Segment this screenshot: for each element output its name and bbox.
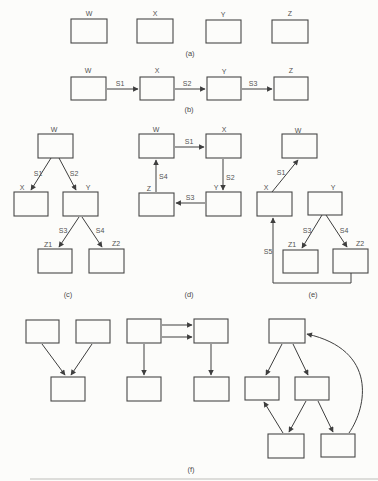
panel-a-node-w-label: W — [86, 10, 93, 17]
panel-d-node-y-label: Y — [214, 184, 219, 191]
panel-c-node-w-label: W — [51, 126, 58, 133]
panel-f-right-edge-bottomleft-midleft-arrow — [264, 402, 283, 433]
panel-d-edge-s2-label: S2 — [226, 174, 235, 181]
panel-e: W X Y Z1 Z2 S1 S3 S4 S5 (e) — [257, 127, 368, 299]
panel-b-edge-s3-label: S3 — [249, 80, 258, 87]
panel-f-left-group — [26, 320, 110, 401]
panel-e-edge-s4-label: S4 — [340, 227, 349, 234]
panel-e-node-y-label: Y — [331, 184, 336, 191]
figure-canvas: W X Y Z (a) W X Y Z S1 S2 S3 (b) W X Y Z… — [0, 0, 378, 481]
panel-d-node-x-label: X — [222, 126, 227, 133]
panel-d-node-z-label: Z — [147, 185, 152, 192]
panel-f-right-bottomright-box — [321, 434, 355, 457]
panel-e-edge-s5-label: S5 — [264, 248, 273, 255]
panel-f-left-top2-box — [76, 320, 110, 343]
panel-e-edge-s1-label: S1 — [277, 169, 286, 176]
panel-c-node-x-box — [14, 192, 48, 216]
panel-c-node-y-box — [63, 192, 98, 216]
panel-f-caption: (f) — [187, 465, 195, 474]
panel-c-node-y-label: Y — [86, 184, 91, 191]
panel-f-right-edge-bottomright-top-curve-arrow — [307, 334, 362, 433]
panel-e-node-z2-label: Z2 — [356, 240, 364, 247]
panel-a-node-w-box — [71, 19, 107, 43]
panel-b-edge-s1-label: S1 — [116, 80, 125, 87]
panel-b-caption: (b) — [184, 105, 194, 114]
panel-a-node-x-box — [137, 19, 173, 43]
panel-d-node-w-label: W — [153, 126, 160, 133]
panel-f-right-midleft-box — [245, 377, 279, 400]
panel-a: W X Y Z (a) — [71, 10, 308, 58]
panel-a-caption: (a) — [185, 49, 195, 58]
panel-e-node-z1-box — [283, 250, 318, 273]
panel-f-right-edge-midright-bottomleft-arrow — [289, 401, 306, 432]
panel-f-left-edge1-arrow — [42, 344, 65, 375]
panel-f-middle-topleft-box — [127, 319, 161, 343]
panel-c-edge-s4-label: S4 — [96, 227, 105, 234]
panel-e-caption: (e) — [308, 290, 318, 299]
panel-b-node-w-label: W — [85, 67, 92, 74]
panel-c-edge-s2-label: S2 — [70, 170, 79, 177]
panel-e-node-w-label: W — [295, 127, 302, 134]
panel-c-node-z2-box — [89, 249, 124, 273]
panel-e-node-z2-box — [333, 249, 368, 273]
panel-f-left-edge2-arrow — [71, 344, 92, 375]
panel-d-edge-s1-label: S1 — [185, 138, 194, 145]
panel-f-right-edge-top-midright-arrow — [293, 344, 308, 375]
panel-b-node-z-box — [274, 77, 308, 100]
panel-f-middle-bottomleft-box — [127, 377, 161, 401]
scan-artifact-line — [30, 478, 378, 480]
panel-f-right-group — [245, 319, 362, 458]
panel-b-node-x-box — [140, 77, 174, 100]
panel-c-node-z2-label: Z2 — [112, 240, 120, 247]
panel-d-edge-s4-label: S4 — [159, 173, 168, 180]
panel-a-node-x-label: X — [153, 10, 158, 17]
panel-e-node-z1-label: Z1 — [288, 241, 296, 248]
panel-b-node-y-box — [207, 77, 241, 100]
panel-a-node-y-label: Y — [221, 11, 226, 18]
figure-page: W X Y Z (a) W X Y Z S1 S2 S3 (b) W X Y Z… — [0, 0, 378, 481]
panel-e-node-w-box — [282, 134, 317, 158]
panel-f: (f) — [26, 319, 362, 474]
panel-c-node-w-box — [38, 134, 73, 158]
panel-f-middle-group — [127, 319, 229, 401]
panel-e-node-y-box — [308, 192, 342, 215]
panel-e-node-x-label: X — [264, 184, 269, 191]
panel-f-right-edge-midright-bottomright-arrow — [318, 401, 333, 432]
panel-f-right-bottomleft-box — [268, 434, 304, 458]
panel-a-node-z-box — [272, 20, 308, 43]
panel-f-middle-bottomright-box — [194, 377, 229, 401]
panel-d-node-z-box — [139, 193, 174, 216]
panel-d-edge-s3-label: S3 — [186, 194, 195, 201]
panel-a-node-y-box — [206, 20, 241, 43]
panel-f-left-top1-box — [26, 320, 59, 343]
panel-e-node-x-box — [257, 192, 292, 216]
panel-e-edge-s1-arrow — [272, 160, 298, 192]
panel-f-left-bottom-box — [51, 377, 85, 401]
panel-c-node-x-label: X — [20, 184, 25, 191]
panel-b-node-z-label: Z — [289, 67, 294, 74]
panel-b-node-w-box — [71, 77, 106, 100]
panel-f-middle-topright-box — [194, 319, 228, 343]
panel-c-caption: (c) — [64, 290, 73, 299]
panel-c: W X Y Z1 Z2 S1 S2 S3 S4 (c) — [14, 126, 124, 299]
panel-d-node-y-box — [206, 192, 241, 216]
panel-f-right-top-box — [269, 319, 305, 343]
panel-b-node-y-label: Y — [222, 68, 227, 75]
panel-e-edge-s3-label: S3 — [303, 227, 312, 234]
panel-b-node-x-label: X — [155, 67, 160, 74]
panel-d-caption: (d) — [184, 290, 194, 299]
panel-b: W X Y Z S1 S2 S3 (b) — [71, 67, 308, 114]
panel-a-node-z-label: Z — [288, 10, 293, 17]
panel-d-node-w-box — [139, 134, 174, 158]
panel-d-node-x-box — [206, 134, 241, 158]
panel-f-right-edge-top-midleft-arrow — [266, 344, 282, 375]
panel-d: W X Z Y S1 S2 S3 S4 (d) — [139, 126, 241, 299]
panel-c-node-z1-label: Z1 — [44, 241, 52, 248]
panel-f-right-midright-box — [295, 377, 329, 400]
panel-c-edge-s1-label: S1 — [34, 170, 43, 177]
panel-c-edge-s3-label: S3 — [59, 227, 68, 234]
panel-c-node-z1-box — [38, 249, 72, 273]
panel-b-edge-s2-label: S2 — [183, 80, 192, 87]
